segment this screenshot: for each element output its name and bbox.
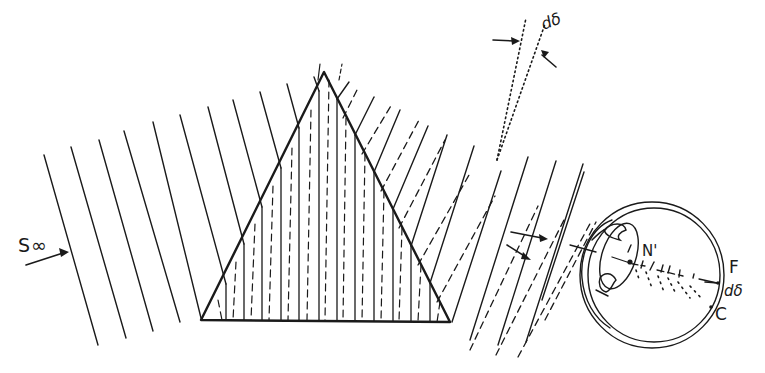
angle-label-eye: dδ (724, 284, 743, 299)
eye-lens (592, 218, 645, 293)
eye-iris-upper (604, 224, 626, 240)
eye-sclera-outer (580, 202, 724, 348)
eye-sclera-inner (588, 208, 720, 342)
dotted-direction-lines (497, 18, 545, 160)
diagram-canvas (0, 0, 765, 373)
arrowhead-top-right (541, 50, 549, 58)
eye-dotted-rays (636, 270, 703, 300)
nodal-point (627, 259, 632, 264)
focus-c-label: C (715, 306, 727, 323)
focus-f-label: F (729, 259, 739, 276)
source-label: S∞ (18, 236, 48, 255)
eye (580, 202, 724, 348)
diagram-stage: S∞ dδ N' F dδ C (0, 0, 765, 373)
nodal-point-label: N' (642, 244, 657, 259)
focus-c-point (709, 305, 713, 309)
internal-rays-dashed (218, 80, 440, 322)
incoming-rays (44, 77, 319, 345)
arrowhead-top-left (511, 37, 520, 45)
